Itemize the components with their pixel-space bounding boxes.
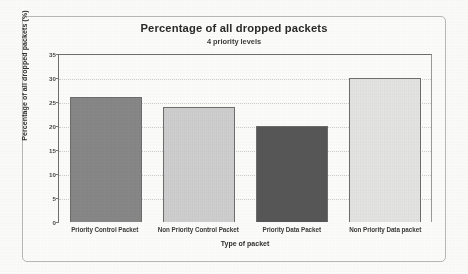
bar bbox=[70, 97, 142, 222]
y-tick-label: 0 bbox=[40, 219, 56, 226]
y-tick-label: 20 bbox=[40, 123, 56, 130]
plot-area bbox=[58, 54, 432, 222]
bar-slot bbox=[59, 55, 152, 222]
y-axis-title: Percentage of all dropped packets (%) bbox=[21, 6, 28, 146]
bar bbox=[349, 78, 421, 222]
bar bbox=[256, 126, 328, 222]
chart-subtitle: 4 priority levels bbox=[0, 37, 468, 46]
y-axis-ticks: 05101520253035 bbox=[38, 54, 56, 222]
y-tick-label: 35 bbox=[40, 51, 56, 58]
x-tick-label: Priority Control Packet bbox=[58, 226, 152, 233]
y-tick-label: 30 bbox=[40, 75, 56, 82]
bar-series bbox=[59, 55, 431, 222]
x-tick-label: Non Priority Data packet bbox=[339, 226, 433, 233]
x-tick-label: Priority Data Packet bbox=[245, 226, 339, 233]
x-tick-label: Non Priority Control Packet bbox=[152, 226, 246, 233]
bar bbox=[163, 107, 235, 222]
y-tick-label: 5 bbox=[40, 195, 56, 202]
figure-canvas: Percentage of all dropped packets 4 prio… bbox=[0, 0, 468, 274]
bar-slot bbox=[152, 55, 245, 222]
x-axis-title: Type of packet bbox=[58, 240, 432, 247]
y-tick-label: 25 bbox=[40, 99, 56, 106]
y-tick-label: 15 bbox=[40, 147, 56, 154]
x-axis-ticks: Priority Control PacketNon Priority Cont… bbox=[58, 226, 432, 233]
y-tick-mark bbox=[56, 222, 59, 223]
y-tick-label: 10 bbox=[40, 171, 56, 178]
bar-slot bbox=[338, 55, 431, 222]
chart-title: Percentage of all dropped packets bbox=[0, 22, 468, 34]
bar-slot bbox=[245, 55, 338, 222]
